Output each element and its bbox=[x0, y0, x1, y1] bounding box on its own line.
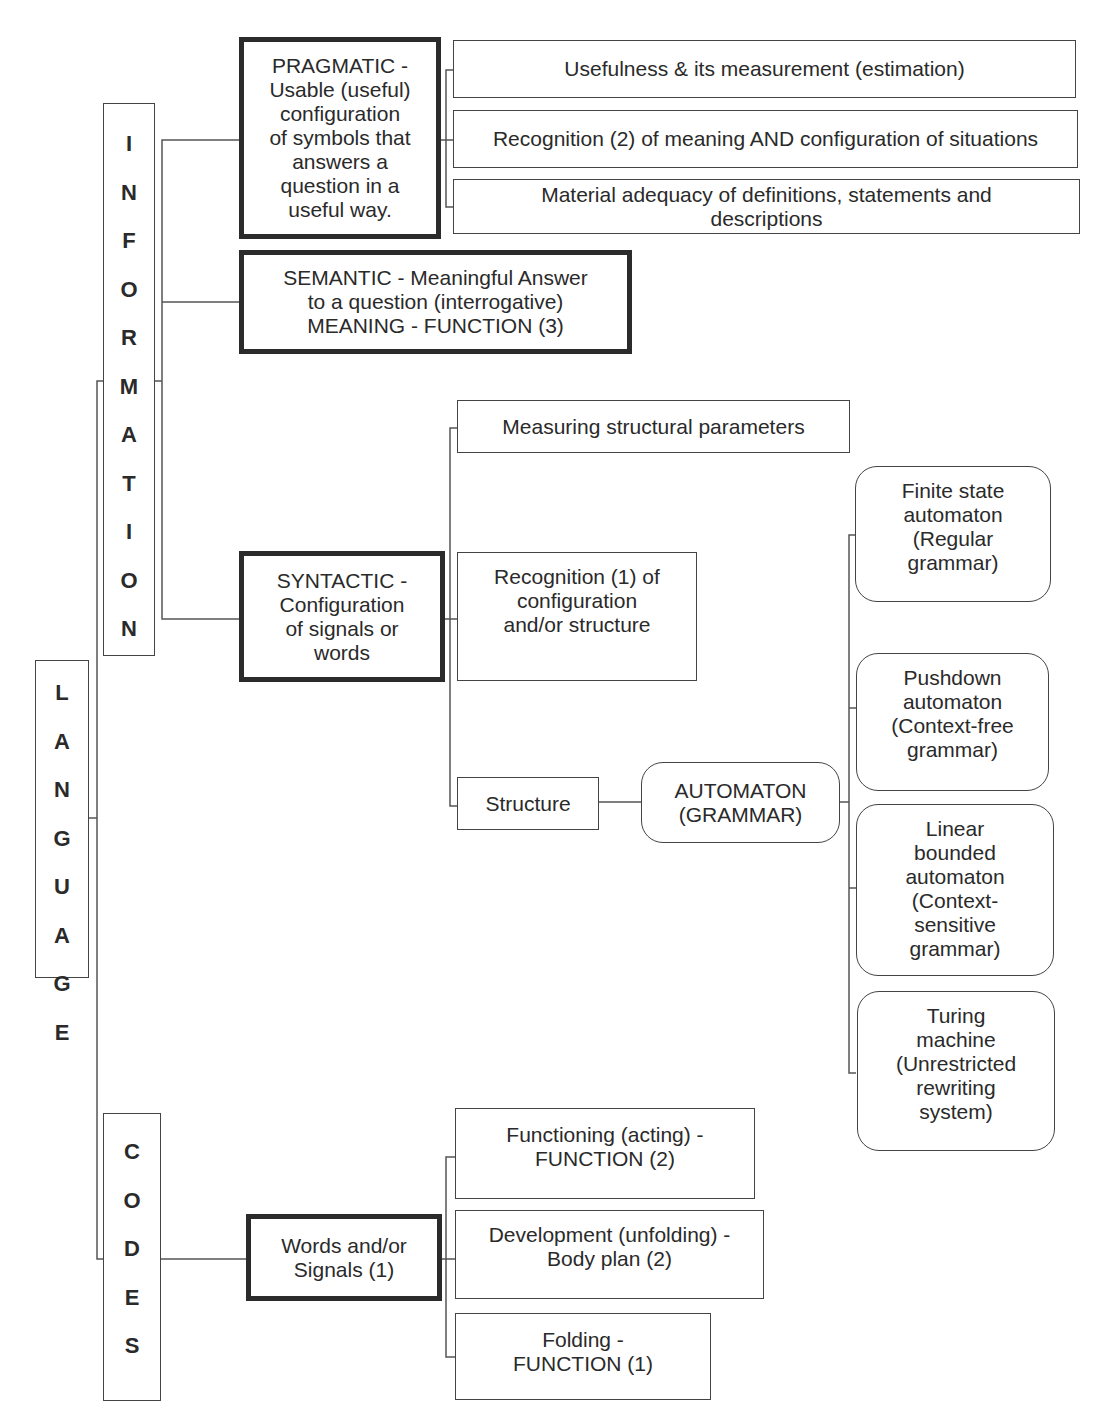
node-text: system) bbox=[919, 1100, 993, 1124]
node-text: Finite state bbox=[902, 479, 1005, 503]
automaton-node: AUTOMATON (GRAMMAR) bbox=[641, 762, 840, 843]
letter: A bbox=[121, 411, 137, 460]
node-text: Signals (1) bbox=[294, 1258, 394, 1282]
words-signals-node: Words and/or Signals (1) bbox=[246, 1214, 442, 1301]
codes-node: C O D E S bbox=[103, 1113, 161, 1401]
node-text: machine bbox=[916, 1028, 995, 1052]
node-text: automaton bbox=[905, 865, 1004, 889]
node-text: Structure bbox=[485, 792, 570, 816]
material-adequacy-node: Material adequacy of definitions, statem… bbox=[453, 179, 1080, 234]
node-text: words bbox=[314, 641, 370, 665]
node-text: Functioning (acting) - bbox=[506, 1123, 703, 1147]
node-text: Linear bbox=[926, 817, 984, 841]
node-text: SYNTACTIC - bbox=[277, 569, 407, 593]
letter: E bbox=[55, 1009, 70, 1058]
node-text: Development (unfolding) - bbox=[489, 1223, 731, 1247]
turing-machine-node: Turing machine (Unrestricted rewriting s… bbox=[857, 991, 1055, 1151]
node-text: grammar) bbox=[907, 738, 998, 762]
letter: S bbox=[125, 1322, 140, 1371]
node-text: question in a bbox=[280, 174, 399, 198]
letter: D bbox=[124, 1225, 140, 1274]
letter: A bbox=[54, 718, 70, 767]
pushdown-node: Pushdown automaton (Context-free grammar… bbox=[856, 653, 1049, 791]
node-text: rewriting bbox=[916, 1076, 995, 1100]
node-text: Material adequacy of definitions, statem… bbox=[541, 183, 992, 207]
node-text: Pushdown bbox=[903, 666, 1001, 690]
node-text: (GRAMMAR) bbox=[679, 803, 803, 827]
node-text: FUNCTION (1) bbox=[513, 1352, 653, 1376]
pragmatic-node: PRAGMATIC - Usable (useful) configuratio… bbox=[239, 37, 441, 239]
node-text: (Unrestricted bbox=[896, 1052, 1016, 1076]
letter: G bbox=[53, 815, 70, 864]
folding-node: Folding - FUNCTION (1) bbox=[455, 1313, 711, 1400]
syntactic-node: SYNTACTIC - Configuration of signals or … bbox=[239, 551, 445, 682]
node-text: Measuring structural parameters bbox=[502, 415, 804, 439]
connector-information bbox=[155, 140, 240, 619]
node-text: bounded bbox=[914, 841, 996, 865]
node-text: Recognition (2) of meaning AND configura… bbox=[493, 127, 1038, 151]
letter: M bbox=[120, 363, 138, 412]
letter: E bbox=[125, 1274, 140, 1323]
node-text: Body plan (2) bbox=[547, 1247, 672, 1271]
recognition-1-node: Recognition (1) of configuration and/or … bbox=[457, 552, 697, 681]
node-text: (Context- bbox=[912, 889, 998, 913]
connector-syntactic bbox=[445, 428, 457, 806]
node-text: Folding - bbox=[542, 1328, 624, 1352]
node-text: configuration bbox=[280, 102, 400, 126]
node-text: Configuration bbox=[280, 593, 405, 617]
node-text: answers a bbox=[292, 150, 388, 174]
letter: O bbox=[120, 266, 137, 315]
letter: N bbox=[54, 766, 70, 815]
letter: O bbox=[120, 557, 137, 606]
node-text: Words and/or bbox=[281, 1234, 407, 1258]
letter: T bbox=[122, 460, 135, 509]
finite-state-node: Finite state automaton (Regular grammar) bbox=[855, 466, 1051, 602]
node-text: grammar) bbox=[909, 937, 1000, 961]
node-text: PRAGMATIC - bbox=[272, 54, 408, 78]
development-node: Development (unfolding) - Body plan (2) bbox=[455, 1210, 764, 1299]
node-text: sensitive bbox=[914, 913, 996, 937]
node-text: configuration bbox=[517, 589, 637, 613]
node-text: AUTOMATON bbox=[675, 779, 807, 803]
structure-node: Structure bbox=[457, 777, 599, 830]
recognition-2-node: Recognition (2) of meaning AND configura… bbox=[453, 110, 1078, 168]
letter: I bbox=[126, 508, 132, 557]
connector-words bbox=[441, 1157, 455, 1357]
node-text: FUNCTION (2) bbox=[535, 1147, 675, 1171]
node-text: Usable (useful) bbox=[269, 78, 410, 102]
connector-automaton bbox=[840, 535, 856, 1073]
node-text: (Context-free bbox=[891, 714, 1014, 738]
node-text: grammar) bbox=[907, 551, 998, 575]
letter: O bbox=[123, 1177, 140, 1226]
measuring-structural-node: Measuring structural parameters bbox=[457, 400, 850, 453]
node-text: Recognition (1) of bbox=[494, 565, 660, 589]
letter: R bbox=[121, 314, 137, 363]
usefulness-node: Usefulness & its measurement (estimation… bbox=[453, 40, 1076, 98]
connector-language bbox=[88, 381, 103, 1259]
node-text: of symbols that bbox=[269, 126, 410, 150]
connector-pragmatic bbox=[440, 70, 453, 207]
semantic-node: SEMANTIC - Meaningful Answer to a questi… bbox=[239, 250, 632, 354]
node-text: Turing bbox=[927, 1004, 986, 1028]
letter: L bbox=[55, 669, 68, 718]
language-node: L A N G U A G E bbox=[35, 660, 89, 978]
letter: F bbox=[122, 217, 135, 266]
letter: N bbox=[121, 169, 137, 218]
node-text: automaton bbox=[903, 503, 1002, 527]
node-text: automaton bbox=[903, 690, 1002, 714]
node-text: Usefulness & its measurement (estimation… bbox=[564, 57, 964, 81]
information-node: I N F O R M A T I O N bbox=[103, 103, 155, 656]
letter: C bbox=[124, 1128, 140, 1177]
node-text: MEANING - FUNCTION (3) bbox=[307, 314, 564, 338]
letter: U bbox=[54, 863, 70, 912]
linear-bounded-node: Linear bounded automaton (Context- sensi… bbox=[856, 804, 1054, 976]
letter: N bbox=[121, 605, 137, 654]
node-text: SEMANTIC - Meaningful Answer bbox=[283, 266, 588, 290]
node-text: descriptions bbox=[710, 207, 822, 231]
functioning-node: Functioning (acting) - FUNCTION (2) bbox=[455, 1108, 755, 1199]
node-text: (Regular bbox=[913, 527, 994, 551]
letter: A bbox=[54, 912, 70, 961]
node-text: to a question (interrogative) bbox=[308, 290, 564, 314]
node-text: and/or structure bbox=[503, 613, 650, 637]
node-text: of signals or bbox=[285, 617, 398, 641]
